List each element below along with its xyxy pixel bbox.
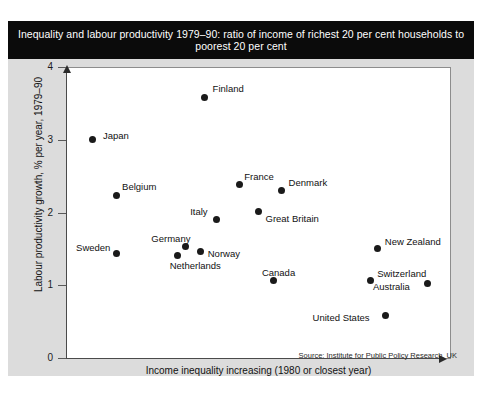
data-point-marker — [113, 192, 120, 199]
data-point-label: Denmark — [289, 177, 328, 188]
data-point-label: Sweden — [76, 242, 110, 253]
data-point-marker — [113, 250, 120, 257]
data-point-label: Great Britain — [266, 213, 319, 224]
data-point-label: Switzerland — [377, 268, 426, 279]
data-point-label: Finland — [213, 83, 244, 94]
data-point-label: New Zealand — [385, 236, 441, 247]
data-point-marker — [382, 312, 389, 319]
data-point-marker — [213, 216, 220, 223]
data-point-label: France — [244, 171, 274, 182]
x-axis-title: Income inequality increasing (1980 or cl… — [66, 365, 451, 376]
source-note: Source: Institute for Public Policy Rese… — [8, 351, 457, 360]
data-point-label: Italy — [190, 206, 207, 217]
y-axis-tick-mark — [58, 213, 66, 214]
data-point-label: Japan — [103, 130, 129, 141]
data-point-label: Norway — [208, 248, 240, 259]
data-point-label: Australia — [373, 281, 410, 292]
data-point-marker — [197, 248, 204, 255]
y-axis-tick-mark — [58, 67, 66, 68]
data-point-marker — [174, 252, 181, 259]
data-point-label: Belgium — [122, 181, 156, 192]
data-point-label: Netherlands — [170, 260, 221, 271]
data-point-label: United States — [313, 312, 370, 323]
data-point-label: Canada — [262, 267, 295, 278]
y-axis-line — [66, 67, 67, 359]
y-axis-title: Labour productivity growth, % per year, … — [33, 70, 44, 300]
chart-figure: Inequality and labour productivity 1979–… — [0, 0, 482, 405]
data-point-label: Germany — [151, 233, 190, 244]
y-axis-tick-mark — [58, 285, 66, 286]
chart-card: Inequality and labour productivity 1979–… — [8, 21, 474, 376]
y-axis-tick-mark — [58, 140, 66, 141]
data-point-marker — [182, 243, 189, 250]
chart-title-banner: Inequality and labour productivity 1979–… — [8, 21, 474, 59]
chart-title: Inequality and labour productivity 1979–… — [14, 28, 468, 53]
